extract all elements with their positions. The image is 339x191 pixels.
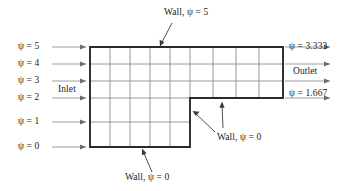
figure-backward-facing-step-mesh: Wall, ψ = 5 ψ = 5 ψ = 4 ψ = 3 ψ = 2 ψ = …: [0, 0, 339, 191]
label-outlet: Outlet: [293, 66, 317, 76]
label-inlet-psi-1: ψ = 1: [18, 116, 39, 126]
label-outlet-psi-top: ψ = 3.333: [289, 41, 327, 51]
label-inlet-psi-4: ψ = 4: [18, 58, 39, 68]
label-bottom-wall: Wall, ψ = 0: [125, 172, 169, 182]
inlet-flow-arrows: [52, 45, 86, 150]
label-step-wall: Wall, ψ = 0: [217, 132, 261, 142]
label-top-wall: Wall, ψ = 5: [164, 7, 208, 17]
label-inlet: Inlet: [58, 84, 76, 94]
label-inlet-psi-3: ψ = 3: [18, 75, 39, 85]
label-inlet-psi-2: ψ = 2: [18, 92, 39, 102]
label-inlet-psi-0: ψ = 0: [18, 141, 39, 151]
label-outlet-psi-bottom: ψ = 1.667: [289, 88, 327, 98]
label-inlet-psi-5: ψ = 5: [18, 41, 39, 51]
